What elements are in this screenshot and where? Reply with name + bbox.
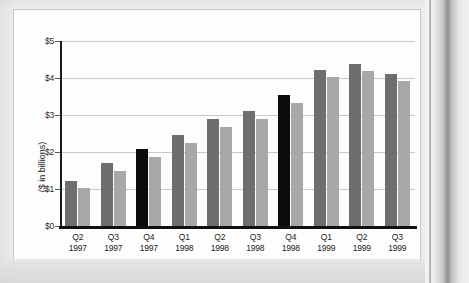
x-tick-quarter: Q4 [131,232,167,243]
bar-group [243,41,268,226]
page-edge-line [429,0,431,283]
bar-secondary [291,103,303,226]
bar-primary [385,74,397,226]
bar-primary [278,95,290,226]
x-tick-year: 1999 [344,243,380,254]
y-axis-line [60,41,62,228]
y-axis-tick-labels: $5 $4 $3 $2 $1 $0 [20,41,54,226]
x-tick-quarter: Q3 [96,232,132,243]
bar-secondary [78,188,90,226]
page-edge-shadow [425,0,469,283]
bar-primary [172,135,184,226]
x-tick-year: 1998 [273,243,309,254]
x-tick-quarter: Q2 [344,232,380,243]
y-tick-label: $3 [45,110,54,120]
x-tick-year: 1997 [60,243,96,254]
x-tick-quarter: Q4 [273,232,309,243]
x-tick-quarter: Q2 [60,232,96,243]
bar-secondary [327,77,339,226]
bar-secondary [398,81,410,226]
bar-secondary [256,119,268,226]
bar-group [136,41,161,226]
x-tick-year: 1998 [202,243,238,254]
bar-group [349,41,374,226]
plot-area [60,41,415,226]
x-tick-label: Q21999 [344,232,380,254]
x-tick-label: Q21997 [60,232,96,254]
bar-secondary [114,171,126,226]
bar-secondary [362,71,374,226]
x-tick-year: 1997 [131,243,167,254]
bar-primary [314,70,326,226]
x-tick-year: 1998 [238,243,274,254]
bar-group [207,41,232,226]
x-tick-label: Q41998 [273,232,309,254]
bar-primary [101,163,113,226]
x-tick-label: Q21998 [202,232,238,254]
bar-group [314,41,339,226]
x-tick-quarter: Q3 [380,232,416,243]
bar-group [65,41,90,226]
x-tick-quarter: Q1 [309,232,345,243]
scanned-page-background: ($ in billions) $5 $4 $3 $2 $1 $0 [0,0,469,283]
bar-group [278,41,303,226]
bar-primary [243,111,255,226]
bar-primary [207,119,219,226]
bar-primary [65,181,77,226]
x-tick-label: Q31999 [380,232,416,254]
bar-group [172,41,197,226]
y-tick-label: $4 [45,73,54,83]
bar-secondary [149,157,161,226]
x-tick-year: 1999 [309,243,345,254]
x-tick-quarter: Q3 [238,232,274,243]
x-tick-quarter: Q1 [167,232,203,243]
x-tick-quarter: Q2 [202,232,238,243]
bar-group [385,41,410,226]
x-tick-label: Q41997 [131,232,167,254]
bar-group [101,41,126,226]
y-tick-label: $5 [45,36,54,46]
bar-primary [349,64,361,226]
x-tick-label: Q31998 [238,232,274,254]
bar-primary [136,149,148,226]
x-tick-label: Q11999 [309,232,345,254]
x-tick-year: 1997 [96,243,132,254]
bar-secondary [185,143,197,226]
paper-bottom-band [0,259,469,283]
x-tick-label: Q11998 [167,232,203,254]
x-axis-line [59,226,417,229]
x-tick-label: Q31997 [96,232,132,254]
x-tick-year: 1999 [380,243,416,254]
y-tick-label: $2 [45,147,54,157]
bar-secondary [220,127,232,226]
x-axis-tick-labels: Q21997Q31997Q41997Q11998Q21998Q31998Q419… [60,232,415,262]
y-tick-label: $0 [45,221,54,231]
x-tick-year: 1998 [167,243,203,254]
y-tick-label: $1 [45,184,54,194]
chart-card: ($ in billions) $5 $4 $3 $2 $1 $0 [14,10,420,263]
